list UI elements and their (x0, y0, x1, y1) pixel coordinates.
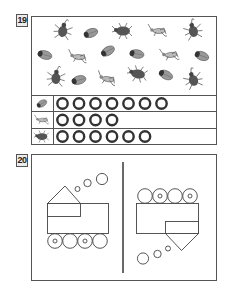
wheel (153, 189, 168, 204)
train-picture-frame (32, 155, 217, 281)
roof-triangle (166, 234, 199, 251)
train-body (137, 204, 199, 234)
wheel (138, 189, 153, 204)
wheel-hub (53, 239, 57, 243)
wheel-hub (188, 194, 192, 198)
right-train (137, 189, 199, 264)
problem-number-20: 20 (16, 154, 28, 167)
wheel (63, 234, 78, 249)
smoke-puff (75, 187, 80, 192)
wheel (48, 234, 63, 249)
smoke-puff (166, 246, 171, 251)
bug-counting-figure (0, 0, 228, 150)
smoke-puff (84, 179, 91, 186)
wheel (168, 189, 183, 204)
wheel (78, 234, 93, 249)
smoke-puff (137, 253, 148, 264)
wheel (93, 234, 108, 249)
smoke-puff (154, 250, 161, 257)
wheel-hub (83, 239, 87, 243)
wheel-hub (158, 194, 162, 198)
wheel (183, 189, 198, 204)
cab-window (166, 222, 199, 234)
train-body (48, 204, 109, 234)
cab-window (48, 204, 81, 217)
left-train (48, 173, 109, 248)
smoke-puff (96, 173, 107, 184)
roof-triangle (48, 186, 81, 204)
